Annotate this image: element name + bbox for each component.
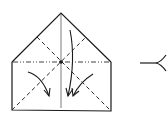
top-fold-arrow-icon bbox=[66, 30, 73, 96]
center-point bbox=[59, 60, 63, 64]
roof-outline bbox=[12, 13, 111, 62]
valley-fold-diagonal-1 bbox=[12, 37, 86, 110]
origami-diagram bbox=[0, 0, 167, 120]
base-outline bbox=[12, 62, 111, 111]
next-step-pointer-icon bbox=[140, 55, 166, 71]
right-fold-arrow-icon bbox=[72, 74, 93, 96]
